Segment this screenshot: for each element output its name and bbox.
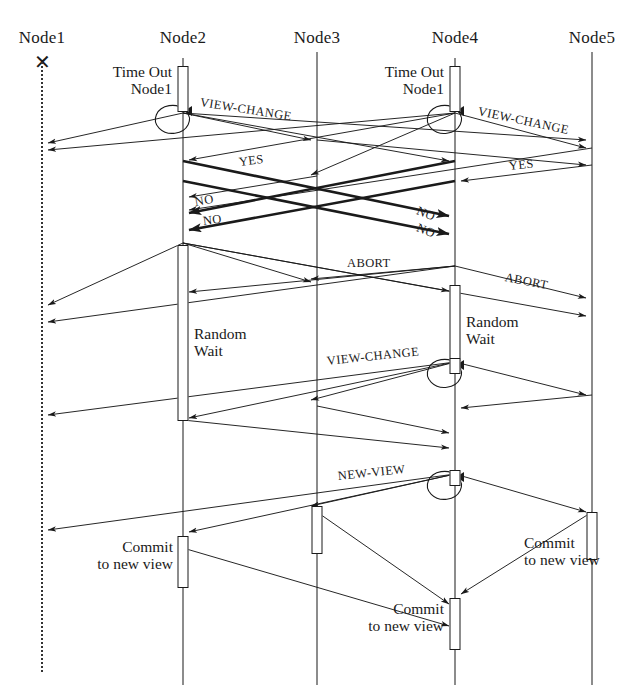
label-abort-1: ABORT bbox=[347, 256, 391, 271]
note-commit-node2: Committo new view bbox=[97, 538, 173, 573]
note-commit-node2-line2: to new view bbox=[97, 555, 173, 572]
node-header-node1: Node1 bbox=[19, 28, 65, 48]
arrow-view-change-n4-n1 bbox=[48, 113, 455, 150]
arrow-new-view-n4-n5 bbox=[455, 474, 586, 512]
arrow-new-view-n4-n1 bbox=[48, 474, 455, 530]
note-random-wait-node2: RandomWait bbox=[194, 325, 247, 360]
note-random-wait-node4-line1: Random bbox=[466, 313, 519, 330]
note-random-wait-node2-line2: Wait bbox=[194, 342, 247, 359]
arrow-view-change3-n4-n5 bbox=[455, 362, 586, 395]
commit-box-node3-upper bbox=[312, 506, 323, 554]
node-header-node3: Node3 bbox=[294, 28, 340, 48]
arrow-view-change3-n4-n1 bbox=[48, 362, 455, 415]
note-timeout-node4: Time OutNode1 bbox=[385, 63, 444, 98]
view-change-box-node4 bbox=[450, 358, 461, 374]
note-commit-node4-line1: Commit bbox=[368, 600, 444, 617]
timeout-box-node4 bbox=[450, 66, 461, 112]
commit-box-node4 bbox=[450, 598, 461, 650]
commit-box-node2 bbox=[178, 536, 189, 588]
note-random-wait-node4: RandomWait bbox=[466, 313, 519, 348]
arrow-abort-n4-n1 bbox=[48, 266, 455, 322]
sequence-diagram-canvas: Node1✕Node2Node3Node4Node5 Time OutNode1… bbox=[0, 0, 625, 696]
timeout-box-node2 bbox=[178, 66, 189, 112]
message-arrow-layer bbox=[0, 0, 625, 696]
note-timeout-node4-line2: Node1 bbox=[385, 80, 444, 97]
node-header-node2: Node2 bbox=[160, 28, 206, 48]
note-random-wait-node4-line2: Wait bbox=[466, 330, 519, 347]
random-wait-box-node2 bbox=[178, 245, 189, 421]
arrow-abort-n2-n1 bbox=[48, 243, 183, 305]
note-commit-node2-line1: Commit bbox=[97, 538, 173, 555]
arrow-view-change-n4-n2 bbox=[189, 113, 455, 160]
note-commit-node4: Committo new view bbox=[368, 600, 444, 635]
new-view-box-node4 bbox=[450, 470, 461, 486]
label-no-2: NO bbox=[202, 212, 223, 229]
note-timeout-node2-line1: Time Out bbox=[113, 63, 172, 80]
lifeline-node1 bbox=[41, 62, 43, 672]
note-commit-node5-line1: Commit bbox=[524, 534, 600, 551]
node-header-node5: Node5 bbox=[569, 28, 615, 48]
label-no-1: NO bbox=[194, 192, 215, 210]
note-commit-node5: Committo new view bbox=[524, 534, 600, 569]
arrow-commit-n3-n4 bbox=[317, 512, 449, 604]
note-random-wait-node2-line1: Random bbox=[194, 325, 247, 342]
note-timeout-node4-line1: Time Out bbox=[385, 63, 444, 80]
label-yes-1: YES bbox=[238, 152, 264, 170]
arrow-reply-n3-n4 bbox=[317, 406, 449, 433]
random-wait-box-node4 bbox=[450, 285, 461, 361]
node-header-node4: Node4 bbox=[432, 28, 478, 48]
note-commit-node4-line2: to new view bbox=[368, 617, 444, 634]
label-yes-2: YES bbox=[508, 156, 534, 174]
lifeline-node5 bbox=[592, 52, 593, 685]
arrow-reply-n5-n4 bbox=[461, 395, 592, 408]
arrow-view-change-n2-n1 bbox=[48, 113, 183, 143]
note-timeout-node2-line2: Node1 bbox=[113, 80, 172, 97]
lifeline-node3 bbox=[317, 52, 318, 685]
note-timeout-node2: Time OutNode1 bbox=[113, 63, 172, 98]
note-commit-node5-line2: to new view bbox=[524, 551, 600, 568]
arrow-view-change3-n4-n2 bbox=[189, 362, 455, 418]
